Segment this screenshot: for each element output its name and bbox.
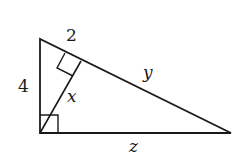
label-hypotenuse-top-segment: 2 (66, 27, 77, 44)
label-hypotenuse-bottom-segment: y (143, 64, 153, 81)
label-altitude: x (67, 88, 77, 105)
right-angle-marker-hypotenuse (57, 53, 73, 76)
label-base: z (129, 138, 138, 155)
triangle-diagram: 4 2 y x z (0, 0, 245, 162)
triangle-figure (0, 0, 245, 162)
label-left-leg: 4 (18, 78, 29, 95)
